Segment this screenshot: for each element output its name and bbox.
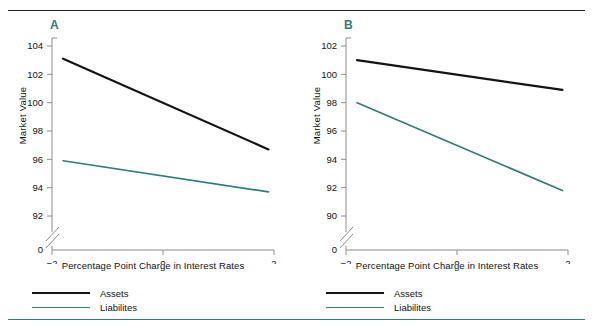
plot-area-b: 90929496981001020−202 bbox=[300, 14, 586, 264]
x-axis-label-b: Percentage Point Charge in Interest Rate… bbox=[322, 260, 572, 271]
svg-text:98: 98 bbox=[326, 97, 337, 108]
legend-item-liabilities: Liabilites bbox=[32, 300, 137, 314]
legend-b: Assets Liabilites bbox=[326, 286, 431, 314]
chart-panel-b: B 90929496981001020−202 Market Value Per… bbox=[300, 14, 586, 314]
svg-text:0: 0 bbox=[332, 244, 337, 255]
legend-item-liabilities: Liabilites bbox=[326, 300, 431, 314]
legend-line-assets-icon bbox=[32, 292, 90, 294]
svg-text:92: 92 bbox=[32, 210, 43, 221]
svg-text:92: 92 bbox=[326, 182, 337, 193]
chart-panel-a: A 929496981001021040−202 Market Value Pe… bbox=[6, 14, 292, 314]
legend-label-liabilities: Liabilites bbox=[394, 302, 431, 313]
figure-container: A 929496981001021040−202 Market Value Pe… bbox=[0, 0, 593, 330]
svg-text:90: 90 bbox=[326, 210, 337, 221]
legend-line-assets-icon bbox=[326, 292, 384, 294]
svg-text:100: 100 bbox=[27, 97, 43, 108]
svg-text:100: 100 bbox=[321, 69, 337, 80]
x-axis-label-a: Percentage Point Charge in Interest Rate… bbox=[28, 260, 278, 271]
svg-text:98: 98 bbox=[32, 125, 43, 136]
legend-item-assets: Assets bbox=[32, 286, 137, 300]
legend-line-liabilities-icon bbox=[326, 307, 384, 308]
svg-text:104: 104 bbox=[27, 40, 43, 51]
y-axis-label-a: Market Value bbox=[17, 66, 28, 166]
legend-label-assets: Assets bbox=[100, 288, 129, 299]
svg-text:94: 94 bbox=[326, 154, 337, 165]
svg-text:102: 102 bbox=[321, 40, 337, 51]
svg-text:96: 96 bbox=[32, 154, 43, 165]
y-axis-label-b: Market Value bbox=[311, 66, 322, 166]
svg-text:96: 96 bbox=[326, 125, 337, 136]
svg-text:94: 94 bbox=[32, 182, 43, 193]
legend-a: Assets Liabilites bbox=[32, 286, 137, 314]
legend-label-liabilities: Liabilites bbox=[100, 302, 137, 313]
svg-text:102: 102 bbox=[27, 69, 43, 80]
plot-area-a: 929496981001021040−202 bbox=[6, 14, 292, 264]
legend-item-assets: Assets bbox=[326, 286, 431, 300]
legend-line-liabilities-icon bbox=[32, 307, 90, 308]
legend-label-assets: Assets bbox=[394, 288, 423, 299]
svg-text:0: 0 bbox=[38, 244, 43, 255]
top-divider-rule bbox=[8, 10, 585, 11]
bottom-divider-rule bbox=[8, 319, 585, 320]
